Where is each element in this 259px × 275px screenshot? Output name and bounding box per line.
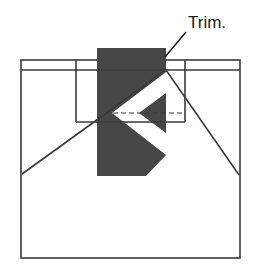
- trim-diagram: Trim.: [0, 0, 259, 275]
- trim-label: Trim.: [188, 13, 226, 32]
- figure-container: Trim.: [0, 0, 259, 275]
